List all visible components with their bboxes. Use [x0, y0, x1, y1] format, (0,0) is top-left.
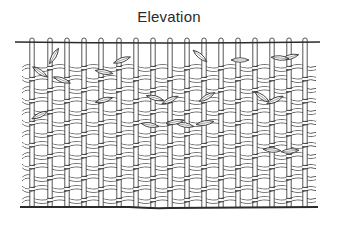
weft-over	[167, 166, 172, 168]
warp-overlap	[185, 142, 189, 149]
warp-stake	[150, 38, 155, 207]
weft-over	[116, 155, 121, 157]
warp-overlap	[134, 87, 138, 94]
weft-over	[150, 133, 155, 135]
warp-overlap	[287, 98, 291, 105]
warp-overlap	[236, 175, 240, 182]
warp-overlap	[202, 65, 206, 72]
weft-over	[235, 122, 240, 124]
weft-over	[218, 67, 223, 69]
warp-overlap	[202, 197, 206, 204]
warp-overlap	[30, 153, 34, 160]
weft-over	[286, 133, 291, 135]
weft-over	[302, 166, 307, 168]
warp-stake	[252, 38, 257, 207]
weft-over	[269, 144, 274, 146]
warp-overlap	[134, 153, 138, 160]
warp-overlap	[253, 98, 257, 105]
ground-line	[20, 207, 318, 208]
warp-overlap	[287, 76, 291, 83]
weft-over	[252, 177, 257, 179]
warp-stake	[302, 38, 307, 207]
warp-overlap	[151, 142, 155, 149]
weft-over	[302, 100, 307, 102]
warp-overlap	[99, 153, 103, 160]
weft-over	[167, 188, 172, 190]
warp-overlap	[202, 109, 206, 116]
warp-overlap	[253, 76, 257, 83]
weft-over	[235, 100, 240, 102]
weft-over	[47, 155, 52, 157]
weft-over	[47, 199, 52, 201]
weft-over	[98, 78, 103, 80]
weft-over	[81, 111, 86, 113]
weft-over	[235, 188, 240, 190]
leaf-icon	[281, 148, 299, 154]
weft-over	[64, 166, 69, 168]
weft-over	[252, 155, 257, 157]
warp-overlap	[82, 98, 86, 105]
warp-overlap	[168, 153, 172, 160]
weft-over	[302, 144, 307, 146]
weft-over	[98, 166, 103, 168]
warp-overlap	[287, 186, 291, 193]
warp-overlap	[151, 76, 155, 83]
warp-stake	[29, 38, 34, 207]
weft-over	[201, 144, 206, 146]
warp-overlap	[303, 87, 307, 94]
warp-overlap	[303, 109, 307, 116]
weft-over	[218, 89, 223, 91]
weft-over	[252, 89, 257, 91]
warp-overlap	[185, 76, 189, 83]
warp-overlap	[134, 197, 138, 204]
weft-over	[133, 122, 138, 124]
weft-over	[29, 166, 34, 168]
warp-stake	[98, 38, 103, 207]
warp-overlap	[303, 153, 307, 160]
warp-overlap	[168, 175, 172, 182]
warp-overlap	[48, 98, 52, 105]
weft-over	[150, 199, 155, 201]
warp-overlap	[219, 120, 223, 127]
warp-overlap	[65, 65, 69, 72]
weft-over	[252, 67, 257, 69]
weft-over	[252, 199, 257, 201]
weft-over	[29, 100, 34, 102]
warp-overlap	[65, 153, 69, 160]
warp-overlap	[30, 87, 34, 94]
weft-over	[167, 78, 172, 80]
weft-over	[286, 111, 291, 113]
warp-overlap	[65, 131, 69, 138]
leaf-vein	[194, 51, 206, 61]
warp-overlap	[65, 109, 69, 116]
weft-over	[269, 122, 274, 124]
woven-fence-elevation	[0, 0, 338, 227]
warp-overlap	[30, 175, 34, 182]
warp-overlap	[303, 65, 307, 72]
warp-overlap	[151, 164, 155, 171]
warp-overlap	[185, 186, 189, 193]
warp-overlap	[117, 98, 121, 105]
weft-over	[29, 122, 34, 124]
weft-over	[81, 133, 86, 135]
warp-stake	[269, 38, 274, 207]
weft-over	[116, 177, 121, 179]
warp-overlap	[236, 65, 240, 72]
warp-overlap	[134, 109, 138, 116]
warp-overlap	[303, 131, 307, 138]
warp-overlap	[202, 87, 206, 94]
warp-overlap	[219, 142, 223, 149]
weft-over	[252, 111, 257, 113]
warp-overlap	[236, 197, 240, 204]
leaf-icon	[113, 55, 131, 65]
weft-over	[201, 166, 206, 168]
warp-overlap	[270, 87, 274, 94]
weft-over	[133, 166, 138, 168]
warp-overlap	[134, 175, 138, 182]
weft-over	[150, 177, 155, 179]
weft-over	[133, 144, 138, 146]
warp-overlap	[168, 109, 172, 116]
weft-over	[29, 78, 34, 80]
warp-overlap	[48, 164, 52, 171]
leaf-icon	[263, 147, 281, 153]
